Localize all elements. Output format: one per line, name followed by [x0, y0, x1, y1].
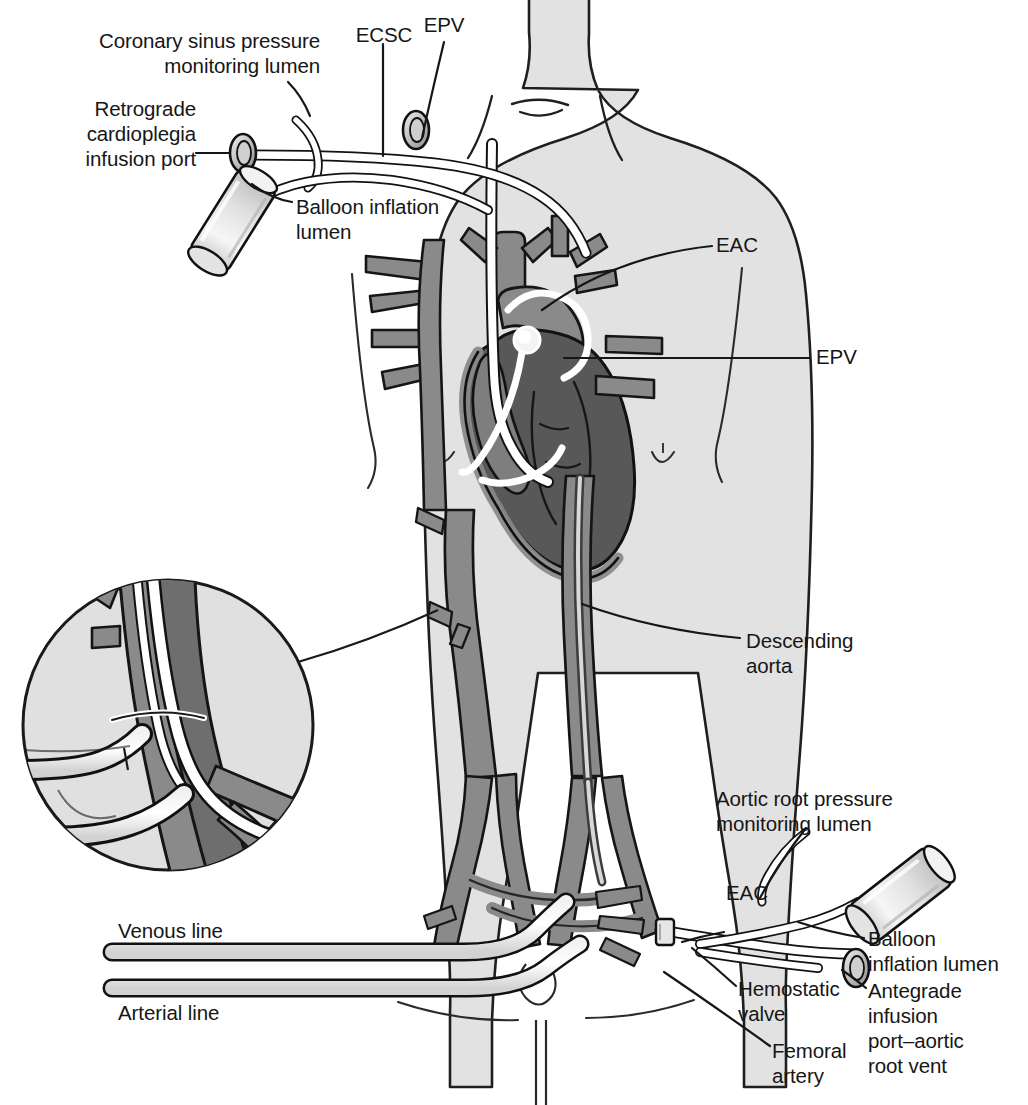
label-eac-bottom: EAC	[726, 880, 806, 905]
hemostatic-valve-fitting	[656, 919, 674, 945]
label-descending-aorta: Descending aorta	[746, 628, 926, 678]
label-epv-right: EPV	[816, 344, 896, 369]
label-balloon-inflation-lumen-superior: Balloon inflation lumen	[296, 194, 476, 244]
label-hemostatic-valve: Hemostatic valve	[738, 976, 868, 1026]
label-aortic-root-pressure-monitoring-lumen: Aortic root pressure monitoring lumen	[716, 786, 946, 836]
figure-root: Coronary sinus pressure monitoring lumen…	[0, 0, 1028, 1105]
label-retrograde-cardioplegia-infusion-port: Retrograde cardioplegia infusion port	[28, 96, 196, 171]
magnified-inset-femoral-access	[20, 540, 438, 886]
label-antegrade-infusion-port-aortic-root-vent: Antegrade infusion port–aortic root vent	[868, 978, 1028, 1078]
label-venous-line: Venous line	[118, 918, 318, 943]
label-arterial-line: Arterial line	[118, 1000, 318, 1025]
label-balloon-inflation-lumen-inferior: Balloon inflation lumen	[868, 926, 1028, 976]
label-epv-top: EPV	[410, 12, 478, 37]
label-coronary-sinus-pressure-monitoring-lumen: Coronary sinus pressure monitoring lumen	[28, 28, 320, 78]
endopulmonary-vent-port-hub	[403, 111, 429, 149]
label-eac-top: EAC	[716, 232, 796, 257]
balloon-inflation-syringe-superior	[184, 160, 282, 281]
label-femoral-artery: Femoral artery	[772, 1038, 892, 1088]
